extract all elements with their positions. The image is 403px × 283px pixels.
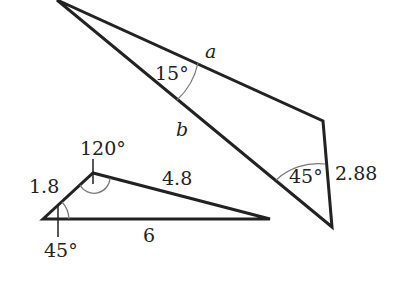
angle-arc-45-small [62, 202, 69, 219]
diagram-canvas: a 15° b 45° 2.88 120° 1.8 4.8 6 45° [0, 0, 403, 283]
label-side-4-8: 4.8 [162, 167, 192, 189]
small-triangle [43, 159, 270, 237]
small-triangle-outline [43, 173, 270, 219]
label-angle-45-large: 45° [289, 165, 323, 187]
label-side-288: 2.88 [335, 162, 377, 184]
triangles-figure: a 15° b 45° 2.88 120° 1.8 4.8 6 45° [0, 0, 403, 283]
label-side-1-8: 1.8 [29, 175, 59, 197]
label-angle-45-small: 45° [44, 239, 78, 261]
label-angle-120: 120° [80, 137, 126, 159]
label-angle-15: 15° [155, 62, 189, 84]
label-side-b: b [176, 118, 188, 140]
label-side-6: 6 [143, 224, 155, 246]
label-side-a: a [205, 40, 216, 62]
